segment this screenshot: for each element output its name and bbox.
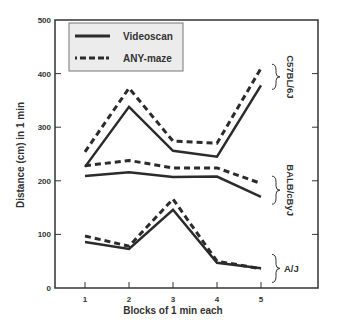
y-tick-label: 500 — [38, 16, 52, 25]
line-chart: 0100200300400500 12345 C57BL/6JBALB/cByJ… — [0, 0, 341, 329]
brace-icon — [272, 176, 280, 204]
legend-label-videoscan: Videoscan — [123, 31, 173, 42]
x-tick-label: 3 — [171, 295, 176, 304]
y-tick-label: 300 — [38, 123, 52, 132]
group-labels: C57BL/6JBALB/cByJA/J — [272, 55, 299, 282]
series-balb-cbyj-videoscan — [85, 172, 261, 197]
group-label: C57BL/6J — [285, 55, 296, 98]
series-balb-cbyj-any-maze — [85, 160, 261, 183]
chart-canvas: 0100200300400500 12345 C57BL/6JBALB/cByJ… — [0, 0, 341, 329]
group-label: A/J — [284, 263, 299, 274]
series-c57bl-6j-videoscan — [85, 85, 261, 166]
y-tick-label: 200 — [38, 177, 52, 186]
x-axis: 12345 — [83, 282, 264, 304]
y-tick-label: 0 — [47, 284, 52, 293]
x-tick-label: 2 — [127, 295, 132, 304]
brace-icon — [272, 64, 280, 89]
x-tick-label: 5 — [259, 295, 264, 304]
x-axis-title: Blocks of 1 min each — [123, 305, 222, 316]
x-tick-label: 4 — [215, 295, 220, 304]
x-tick-label: 1 — [83, 295, 88, 304]
series-c57bl-6j-any-maze — [85, 68, 261, 152]
group-label: BALB/cByJ — [285, 164, 296, 216]
y-tick-label: 400 — [38, 70, 52, 79]
series-a-j-videoscan — [85, 210, 261, 268]
brace-icon — [272, 254, 280, 282]
legend-label-anymaze: ANY-maze — [123, 53, 172, 64]
y-tick-label: 100 — [38, 230, 52, 239]
series-layer — [85, 68, 261, 268]
legend: Videoscan ANY-maze — [69, 23, 183, 71]
y-axis-title: Distance (cm) in 1 min — [15, 102, 26, 208]
